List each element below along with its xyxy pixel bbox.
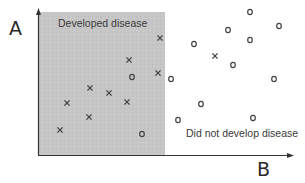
o-marker-icon: [176, 117, 181, 122]
x-axis-label: B: [257, 160, 270, 179]
x-axis-arrowhead-icon: [287, 153, 294, 158]
o-marker-icon: [226, 27, 231, 32]
o-marker-icon: [272, 76, 277, 81]
o-marker-icon: [277, 23, 282, 28]
scatter-diagram: A B Developed disease Did not develop di…: [0, 0, 305, 183]
plot-area: [0, 0, 305, 183]
o-marker-icon: [231, 62, 236, 67]
o-marker-icon: [199, 101, 204, 106]
developed-disease-region: [39, 12, 165, 155]
developed-disease-label: Developed disease: [58, 18, 147, 29]
o-marker-icon: [192, 41, 197, 46]
y-axis-arrowhead-icon: [36, 8, 41, 15]
y-axis-label: A: [9, 19, 22, 38]
did-not-develop-disease-label: Did not develop disease: [186, 128, 298, 139]
x-marker-icon: [212, 53, 217, 58]
o-marker-icon: [251, 115, 256, 120]
o-marker-icon: [169, 76, 174, 81]
o-marker-icon: [248, 37, 253, 42]
o-marker-icon: [248, 9, 253, 14]
